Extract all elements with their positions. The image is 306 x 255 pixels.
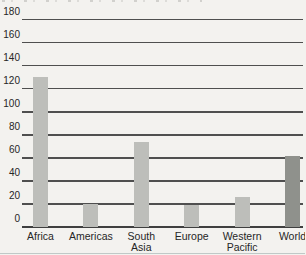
gridline-40 <box>22 180 303 182</box>
gridline-180 <box>22 19 303 21</box>
y-axis-tick-label: 0 <box>0 214 20 224</box>
bar-south-asia <box>134 142 149 227</box>
y-axis-tick-label: 20 <box>0 191 20 201</box>
y-axis-tick-label: 160 <box>0 30 20 40</box>
gridline-60 <box>22 157 303 159</box>
y-axis-tick-label: 180 <box>0 7 20 17</box>
gridline-140 <box>22 65 303 67</box>
y-axis-tick-label: 120 <box>0 76 20 86</box>
gridline-100 <box>22 111 303 113</box>
y-axis-tick-label: 40 <box>0 168 20 178</box>
bar-americas <box>83 204 98 227</box>
x-axis-category-label: World <box>263 231 306 242</box>
x-axis-line <box>22 226 303 228</box>
bar-europe <box>184 205 199 227</box>
y-axis-tick-label: 100 <box>0 99 20 109</box>
chart-canvas: 020406080100120140160180AfricaAmericasSo… <box>0 0 305 255</box>
gridline-160 <box>22 42 303 44</box>
gridline-120 <box>22 88 303 90</box>
bar-world <box>285 156 300 227</box>
cropped-title-remnant <box>2 0 202 2</box>
gridline-80 <box>22 134 303 136</box>
y-axis-tick-label: 60 <box>0 145 20 155</box>
bar-africa <box>33 77 48 227</box>
y-axis-tick-label: 140 <box>0 53 20 63</box>
bar-western-pacific <box>235 197 250 227</box>
y-axis-tick-label: 80 <box>0 122 20 132</box>
bottom-divider-line <box>0 253 305 254</box>
gridline-20 <box>22 203 303 205</box>
